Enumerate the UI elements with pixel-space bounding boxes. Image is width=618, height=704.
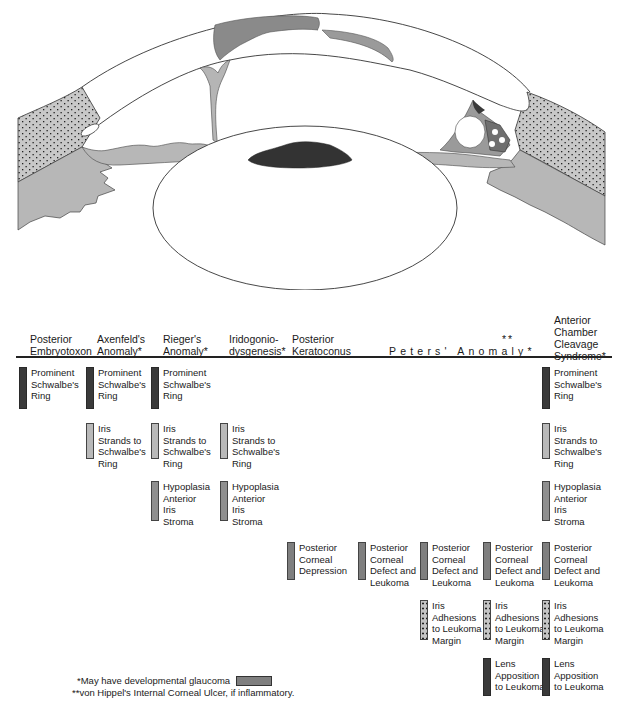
- header-posterior-keratoconus: Posterior Keratoconus: [292, 333, 351, 357]
- iris-strand-left: [200, 60, 230, 150]
- glaucoma-swatch: [236, 676, 272, 686]
- posterior-corneal-defect: [214, 16, 320, 60]
- footnote-glaucoma: *May have developmental glaucoma: [77, 675, 272, 687]
- peters-double-star: **: [502, 333, 514, 345]
- header-axenfelds-anomaly: Axenfeld's Anomaly*: [97, 333, 145, 357]
- header-iridogoniodysgenesis: Iridogonio- dysgenesis*: [229, 333, 286, 357]
- eye-cross-section-illustration: [0, 0, 618, 290]
- header-anterior-chamber-cleavage-syndrome: Anterior Chamber Cleavage Syndrome*: [554, 314, 606, 362]
- header-divider: [16, 356, 612, 358]
- header-riegers-anomaly: Rieger's Anomaly*: [163, 333, 208, 357]
- header-posterior-embryotoxon: Posterior Embryotoxon: [30, 333, 92, 357]
- footnote-von-hippel: **von Hippel's Internal Corneal Ulcer, i…: [72, 687, 294, 699]
- cornea-endothelium: [88, 54, 500, 133]
